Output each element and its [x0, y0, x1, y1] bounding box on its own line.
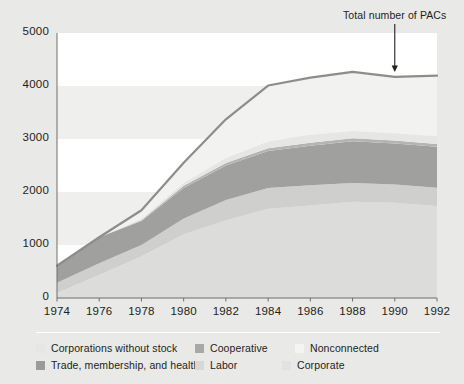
legend-label: Corporate [297, 359, 345, 371]
legend-swatch [295, 344, 304, 353]
legend-item[interactable]: Nonconnected [295, 342, 379, 354]
legend-label: Cooperative [210, 342, 268, 354]
legend-divider [36, 332, 440, 333]
y-tick-label: 3000 [3, 131, 49, 143]
legend-item[interactable]: Cooperative [195, 342, 268, 354]
x-tick-label: 1974 [35, 305, 79, 317]
y-tick-label: 0 [3, 290, 49, 302]
x-tick-label: 1984 [246, 305, 290, 317]
legend-swatch [36, 344, 45, 353]
legend-swatch [195, 344, 204, 353]
y-tick-label: 5000 [3, 25, 49, 37]
x-tick-label: 1978 [119, 305, 163, 317]
total-line-annotation-label: Total number of PACs [343, 9, 446, 21]
legend-item[interactable]: Corporate [282, 359, 345, 371]
x-tick-label: 1976 [77, 305, 121, 317]
legend-label: Corporations without stock [51, 342, 177, 354]
y-tick-label: 1000 [3, 237, 49, 249]
legend-label: Trade, membership, and health [51, 359, 199, 371]
x-tick-label: 1992 [415, 305, 459, 317]
legend-item[interactable]: Labor [195, 359, 237, 371]
legend-swatch [282, 361, 291, 370]
y-tick-label: 4000 [3, 78, 49, 90]
y-tick-label: 2000 [3, 184, 49, 196]
legend-swatch [195, 361, 204, 370]
x-tick-label: 1982 [204, 305, 248, 317]
legend-item[interactable]: Corporations without stock [36, 342, 177, 354]
x-tick-label: 1988 [331, 305, 375, 317]
x-tick-label: 1990 [373, 305, 417, 317]
x-tick-label: 1980 [162, 305, 206, 317]
legend-label: Nonconnected [310, 342, 379, 354]
legend-swatch [36, 361, 45, 370]
chart-legend: Corporations without stockCooperativeNon… [0, 330, 464, 384]
x-tick-label: 1986 [288, 305, 332, 317]
plot-area [0, 0, 464, 318]
legend-label: Labor [210, 359, 237, 371]
figure-canvas: 010002000300040005000 197419761978198019… [0, 0, 464, 384]
legend-item[interactable]: Trade, membership, and health [36, 359, 199, 371]
stacked-area-chart [0, 0, 464, 318]
